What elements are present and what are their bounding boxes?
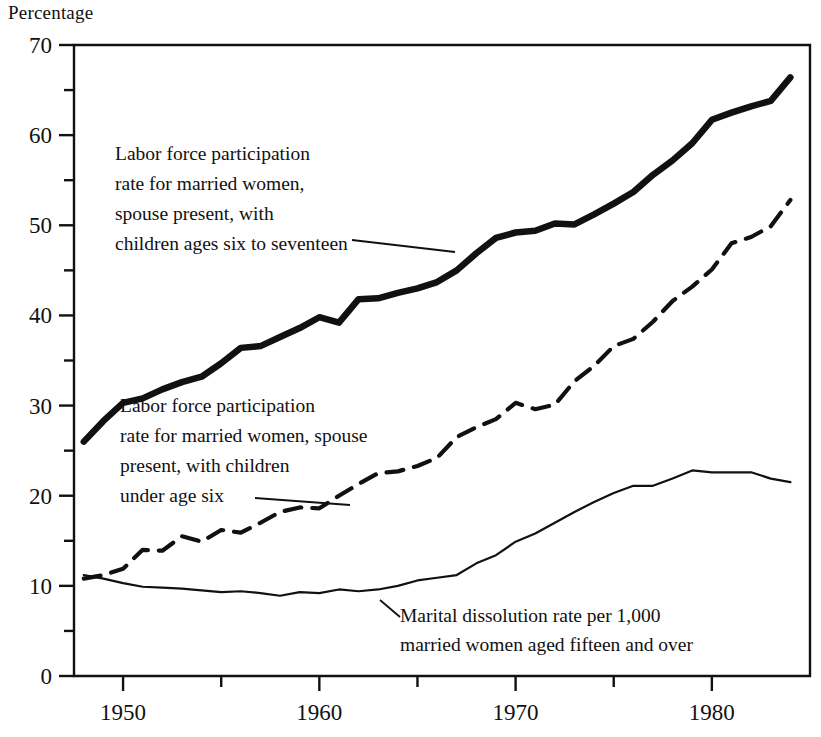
annotation-line: under age six: [120, 485, 224, 506]
annotation-line: children ages six to seventeen: [115, 233, 348, 254]
annotation-line: Labor force participation: [120, 395, 315, 416]
annotation-line: spouse present, with: [115, 203, 274, 224]
y-axis-tick-label: 30: [29, 394, 52, 419]
x-axis-tick-label: 1980: [689, 700, 735, 725]
y-axis-tick-label: 20: [29, 484, 52, 509]
annotation-line: Labor force participation: [115, 143, 310, 164]
y-axis-tick-label: 40: [29, 303, 52, 328]
line-chart-plot: 010203040506070 1950196019701980 Labor f…: [0, 0, 821, 737]
chart-root: Percentage 010203040506070 1950196019701…: [0, 0, 821, 737]
leader-line-dashed: [255, 498, 350, 505]
x-axis-tick-label: 1960: [296, 700, 342, 725]
y-axis-tick-label: 10: [29, 574, 52, 599]
annotation-line: rate for married women,: [115, 173, 305, 194]
x-axis-tick-label: 1950: [100, 700, 146, 725]
plot-border: [74, 45, 810, 676]
annotation-line: Marital dissolution rate per 1,000: [400, 605, 661, 626]
annotation-dashed-line: Labor force participationrate for marrie…: [120, 395, 367, 506]
annotation-line: rate for married women, spouse: [120, 425, 367, 446]
annotation-line: married women aged fifteen and over: [400, 634, 693, 655]
annotation-thick-line: Labor force participationrate for marrie…: [115, 143, 348, 254]
annotation-labels: Labor force participationrate for marrie…: [115, 143, 693, 655]
axis-ticks: [59, 45, 712, 691]
annotation-line: present, with children: [120, 455, 290, 476]
plot-frame: [74, 45, 810, 676]
annotation-thin-line: Marital dissolution rate per 1,000marrie…: [400, 605, 693, 655]
leader-line-thick: [352, 240, 455, 252]
y-axis-tick-labels: 010203040506070: [29, 33, 52, 689]
x-axis-tick-label: 1970: [493, 700, 539, 725]
y-axis-tick-label: 60: [29, 123, 52, 148]
x-axis-tick-labels: 1950196019701980: [100, 700, 735, 725]
leader-line-thin: [380, 600, 400, 617]
series-line-thick: [84, 77, 791, 441]
y-axis-tick-label: 70: [29, 33, 52, 58]
series-line-dashed: [84, 200, 791, 579]
y-axis-tick-label: 50: [29, 213, 52, 238]
y-axis-tick-label: 0: [41, 664, 53, 689]
